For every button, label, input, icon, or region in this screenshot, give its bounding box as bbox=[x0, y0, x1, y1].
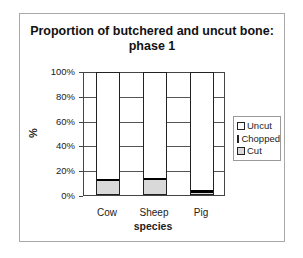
bar-cow bbox=[96, 72, 120, 195]
legend-swatch-icon bbox=[237, 122, 245, 130]
plot-area bbox=[83, 72, 225, 196]
x-tick-label: Sheep bbox=[129, 207, 179, 218]
bar-pig bbox=[190, 72, 214, 195]
legend-swatch-icon bbox=[237, 135, 239, 143]
y-tick-label: 40% bbox=[35, 140, 75, 151]
legend-label: Uncut bbox=[247, 120, 272, 133]
legend-item-uncut: Uncut bbox=[237, 120, 280, 133]
y-tick-label: 100% bbox=[35, 66, 75, 77]
legend-label: Cut bbox=[247, 145, 262, 158]
y-tick bbox=[79, 196, 83, 197]
segment-cut bbox=[191, 193, 213, 194]
x-axis-title: species bbox=[128, 220, 178, 232]
segment-uncut bbox=[97, 73, 119, 179]
legend-label: Chopped bbox=[241, 133, 280, 146]
legend-item-chopped: Chopped bbox=[237, 133, 280, 146]
y-tick-label: 0% bbox=[35, 190, 75, 201]
legend: UncutChoppedCut bbox=[233, 116, 281, 161]
x-tick-label: Pig bbox=[176, 207, 226, 218]
y-tick-label: 60% bbox=[35, 116, 75, 127]
y-axis-title: % bbox=[27, 128, 39, 138]
chart-title-line-1: Proportion of butchered and uncut bone: bbox=[19, 24, 285, 39]
chart-title-line-2: phase 1 bbox=[19, 39, 285, 54]
segment-uncut bbox=[191, 73, 213, 190]
segment-cut bbox=[144, 180, 166, 194]
chart-title: Proportion of butchered and uncut bone: … bbox=[19, 24, 285, 54]
legend-item-cut: Cut bbox=[237, 145, 280, 158]
segment-uncut bbox=[144, 73, 166, 178]
segment-cut bbox=[97, 181, 119, 194]
legend-swatch-icon bbox=[237, 147, 245, 155]
y-tick-label: 20% bbox=[35, 165, 75, 176]
y-tick-label: 80% bbox=[35, 91, 75, 102]
bar-sheep bbox=[143, 72, 167, 195]
x-tick-label: Cow bbox=[82, 207, 132, 218]
